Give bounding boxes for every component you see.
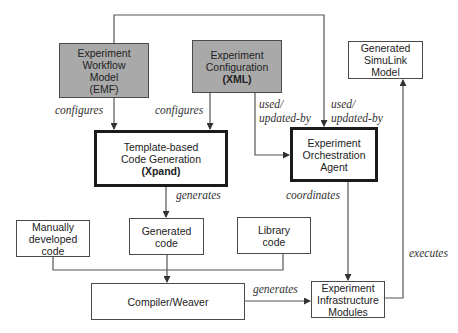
node-label: Manually (29, 221, 77, 233)
node-label: Infrastructure (317, 294, 379, 306)
node-generated-code: Generated code (129, 218, 204, 255)
node-label: Generated (142, 225, 192, 237)
edge-label-workflow-configures: configures (55, 104, 103, 117)
edge-label-infrastructure-executes: executes (409, 247, 448, 260)
node-label: Template-based (121, 141, 201, 153)
node-label: Compiler/Weaver (128, 296, 209, 308)
node-experiment-infrastructure-modules: Experiment Infrastructure Modules (311, 281, 385, 318)
node-label: Experiment (206, 49, 268, 61)
architecture-diagram: Experiment Workflow Model (EMF) Experime… (0, 0, 458, 333)
node-label: Workflow (77, 59, 130, 71)
node-label: (Xpand) (121, 165, 201, 177)
node-label: Experiment (302, 137, 365, 149)
edge-label-workflow-used: used/ (331, 98, 355, 111)
node-label: Agent (302, 161, 365, 173)
node-manually-developed-code: Manually developed code (16, 220, 90, 257)
edge-label-config-configures: configures (155, 104, 203, 117)
node-label: Model (77, 71, 130, 83)
node-label: Code Generation (121, 153, 201, 165)
node-compiler-weaver: Compiler/Weaver (91, 283, 245, 320)
node-label: code (142, 237, 192, 249)
node-experiment-configuration: Experiment Configuration (XML) (192, 40, 282, 93)
edge-label-orchestration-coordinates: coordinates (286, 189, 340, 202)
node-generated-simulink-model: Generated SimuLink Model (348, 41, 423, 79)
node-label: code (258, 236, 290, 248)
node-label: code (29, 245, 77, 257)
node-library-code: Library code (237, 217, 311, 254)
edge-label-config-updated-by: updated-by (259, 112, 311, 125)
node-label: Model (361, 66, 411, 78)
node-label: Modules (317, 306, 379, 318)
edge-label-compiler-generates: generates (253, 283, 298, 296)
node-experiment-orchestration-agent: Experiment Orchestration Agent (290, 127, 378, 182)
edge-label-template-generates: generates (176, 189, 221, 202)
node-template-code-generation: Template-based Code Generation (Xpand) (94, 130, 228, 187)
node-label: Configuration (206, 61, 268, 73)
node-label: SimuLink (361, 54, 411, 66)
node-experiment-workflow-model: Experiment Workflow Model (EMF) (59, 43, 149, 98)
edge-label-config-used: used/ (259, 98, 283, 111)
node-label: Experiment (77, 47, 130, 59)
node-label: Library (258, 224, 290, 236)
node-label: (XML) (206, 73, 268, 85)
edge-label-workflow-updated-by: updated-by (331, 112, 383, 125)
node-label: Generated (361, 42, 411, 54)
node-label: Orchestration (302, 149, 365, 161)
edge-infrastructure-to-simulink (385, 80, 403, 298)
node-label: (EMF) (77, 83, 130, 95)
node-label: Experiment (317, 282, 379, 294)
node-label: developed (29, 233, 77, 245)
